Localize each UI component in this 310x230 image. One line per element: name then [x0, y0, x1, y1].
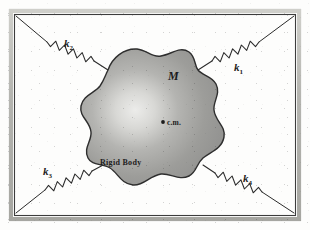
center-of-mass-label: c.m. — [167, 119, 181, 127]
spring-label-k2-subscript: 2 — [70, 44, 74, 52]
spring-k1-leader — [198, 61, 212, 70]
spring-label-k1: k1 — [234, 62, 243, 76]
spring-label-k3-subscript: 3 — [49, 172, 53, 180]
anchor-line-k4 — [262, 192, 294, 213]
center-of-mass-dot — [161, 120, 165, 124]
spring-label-k1-subscript: 1 — [240, 68, 244, 76]
spring-label-k4-subscript: 4 — [249, 179, 253, 187]
spring-k2-leader — [94, 61, 108, 70]
spring-label-k4: k4 — [243, 173, 252, 187]
anchor-line-k1 — [259, 16, 294, 42]
spring-k4-leader — [203, 165, 215, 173]
anchor-line-k3 — [16, 190, 45, 213]
spring-k4 — [215, 172, 262, 193]
spring-label-k2: k2 — [64, 38, 73, 52]
spring-label-k3: k3 — [43, 166, 52, 180]
rigid-body-spring-diagram: k1 k2 k3 k4 M c.m. Rigid Body — [0, 0, 310, 230]
anchor-line-k2 — [16, 16, 47, 42]
mass-label: M — [168, 70, 179, 82]
spring-k3 — [45, 170, 92, 191]
spring-k1 — [212, 41, 259, 62]
diagram-canvas — [0, 0, 310, 230]
rigid-body-label: Rigid Body — [100, 159, 141, 167]
